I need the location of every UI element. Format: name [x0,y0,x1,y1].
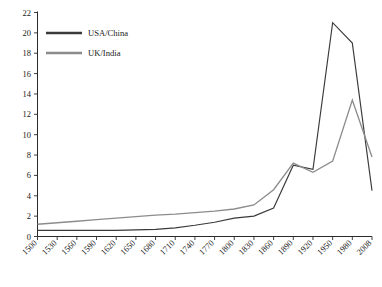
y-tick-label: 14 [23,89,32,99]
x-tick-label: 1950 [315,238,334,257]
y-tick-label: 2 [27,211,31,221]
legend-label: USA/China [88,28,128,38]
x-axis-ticks: 1500153015601590162016501680171017401770… [20,237,374,257]
x-tick-label: 1890 [276,238,295,257]
y-tick-label: 6 [27,170,31,180]
x-tick-label: 1860 [256,238,275,257]
x-tick-label: 1500 [20,238,39,257]
x-tick-label: 1620 [99,238,118,257]
x-tick-label: 1530 [39,238,58,257]
y-tick-label: 22 [23,8,32,18]
line-chart: 0246810121416182022 15001530156015901620… [0,0,382,287]
y-tick-label: 20 [23,28,32,38]
x-tick-label: 1980 [335,238,354,257]
series-line-uk-india [38,100,373,224]
y-tick-label: 4 [27,191,32,201]
y-tick-label: 16 [23,69,32,79]
x-tick-label: 1830 [236,238,255,257]
x-tick-label: 1800 [217,238,236,257]
y-tick-label: 8 [27,150,31,160]
x-tick-label: 1590 [79,238,98,257]
x-tick-label: 1920 [295,238,314,257]
y-tick-label: 12 [23,109,32,119]
x-tick-label: 1680 [138,238,157,257]
x-tick-label: 1740 [177,238,196,257]
x-tick-label: 1770 [197,238,216,257]
x-tick-label: 1650 [118,238,137,257]
x-tick-label: 1560 [59,238,78,257]
x-tick-label: 2008 [354,238,373,257]
y-tick-label: 18 [23,48,32,58]
chart-container: 0246810121416182022 15001530156015901620… [0,0,382,287]
y-tick-label: 10 [23,130,32,140]
x-tick-label: 1710 [158,238,177,257]
legend-label: UK/India [88,48,121,58]
chart-legend: USA/ChinaUK/India [46,28,128,58]
y-axis-ticks: 0246810121416182022 [23,8,38,242]
